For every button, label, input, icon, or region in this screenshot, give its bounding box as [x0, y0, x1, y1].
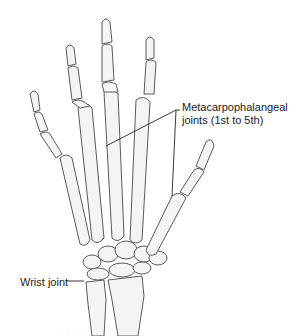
mcp-joints-label: Metacarpophalangeal joints (1st to 5th) [182, 101, 288, 127]
middle-finger-phalanges [102, 19, 118, 92]
little-finger-phalanges [30, 91, 62, 158]
wrist-joint-label: Wrist joint [20, 276, 68, 289]
index-finger-phalanges [144, 37, 156, 94]
thumb-phalanges [180, 140, 214, 196]
faint-caption: · · · · · · · · · · · [60, 326, 133, 335]
ring-finger-phalanges [66, 45, 90, 108]
mcp-label-line2: joints (1st to 5th) [182, 114, 288, 127]
mcp-label-line1: Metacarpophalangeal [182, 101, 288, 114]
hand-skeleton-diagram: Metacarpophalangeal joints (1st to 5th) … [0, 0, 302, 336]
